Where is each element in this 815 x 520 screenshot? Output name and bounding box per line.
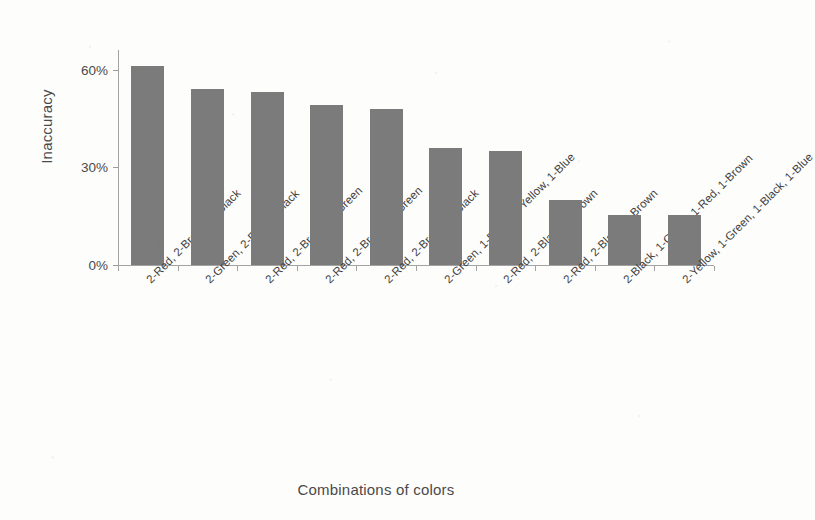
x-tick-mark <box>595 266 596 271</box>
bar <box>668 215 701 265</box>
x-tick-mark <box>356 266 357 271</box>
x-tick-mark <box>118 266 119 271</box>
y-axis-line <box>118 50 119 266</box>
y-tick-label: 0% <box>64 258 108 273</box>
bar <box>131 66 164 265</box>
bar <box>489 151 522 265</box>
bar <box>310 105 343 265</box>
x-tick-mark <box>416 266 417 271</box>
x-tick-mark <box>714 266 715 271</box>
x-tick-mark <box>476 266 477 271</box>
bar <box>251 92 284 265</box>
bar <box>370 109 403 265</box>
bar <box>191 89 224 265</box>
y-tick-label: 30% <box>64 160 108 175</box>
bar <box>608 215 641 265</box>
x-axis-title: Combinations of colors <box>0 481 752 498</box>
y-tick-label: 60% <box>64 62 108 77</box>
x-tick-mark <box>654 266 655 271</box>
y-tick-mark <box>113 70 118 71</box>
x-tick-mark <box>535 266 536 271</box>
y-tick-mark <box>113 167 118 168</box>
bar <box>549 200 582 265</box>
x-tick-mark <box>237 266 238 271</box>
bar <box>429 148 462 265</box>
x-tick-mark <box>178 266 179 271</box>
y-axis-title: Inaccuracy <box>38 47 55 207</box>
x-tick-mark <box>297 266 298 271</box>
